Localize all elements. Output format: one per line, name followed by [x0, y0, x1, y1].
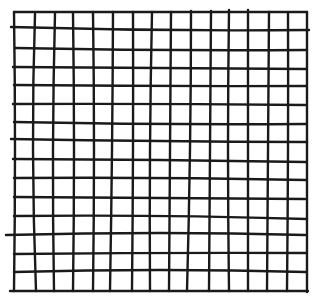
horizontal-line-6 — [13, 104, 305, 105]
paper-background — [0, 0, 321, 304]
vertical-line-7 — [132, 12, 133, 291]
horizontal-line-5 — [14, 85, 306, 86]
hand-drawn-grid-drawing — [0, 0, 321, 304]
vertical-line-15 — [287, 13, 288, 291]
vertical-line-1 — [14, 12, 15, 291]
grid-svg — [0, 0, 321, 304]
vertical-line-5 — [93, 12, 94, 291]
vertical-line-12 — [228, 10, 229, 291]
horizontal-line-14 — [14, 253, 306, 254]
vertical-line-4 — [73, 13, 74, 291]
